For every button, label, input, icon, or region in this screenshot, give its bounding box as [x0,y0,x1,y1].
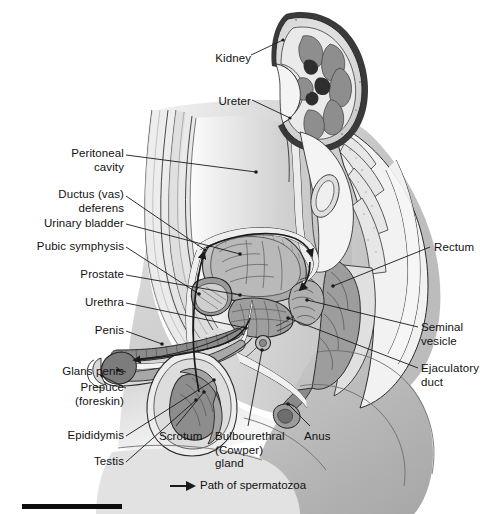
legend-label: Path of spermatozoa [200,479,306,493]
label-prepuce-foreskin: Prepuce (foreskin) [22,381,124,408]
label-kidney: Kidney [205,52,251,66]
label-rectum: Rectum [434,241,494,255]
label-urinary-bladder: Urinary bladder [10,217,124,231]
label-scrotum: Scrotum [159,430,221,444]
label-seminal-vesicle: Seminal vesicle [421,321,494,348]
label-epididymis: Epididymis [24,429,124,443]
label-prostate: Prostate [40,268,124,282]
label-anus: Anus [304,430,348,444]
anatomical-figure: Kidney Ureter Peritoneal cavity Ductus (… [0,0,494,514]
label-urethra: Urethra [42,296,124,310]
label-testis: Testis [62,455,124,469]
label-ureter: Ureter [205,95,251,109]
label-penis: Penis [52,324,124,338]
label-bulbourethral-gland: Bulbourethral (Cowper) gland [215,430,305,471]
anus-organ [273,404,300,428]
label-pubic-symphysis: Pubic symphysis [8,240,124,254]
label-ejaculatory-duct: Ejaculatory duct [421,362,494,389]
footer-black-rule [22,504,122,509]
label-glans-penis: Glans penis [22,365,124,379]
label-ductus-deferens: Ductus (vas) deferens [22,188,124,215]
label-peritoneal-cavity: Peritoneal cavity [22,147,124,174]
